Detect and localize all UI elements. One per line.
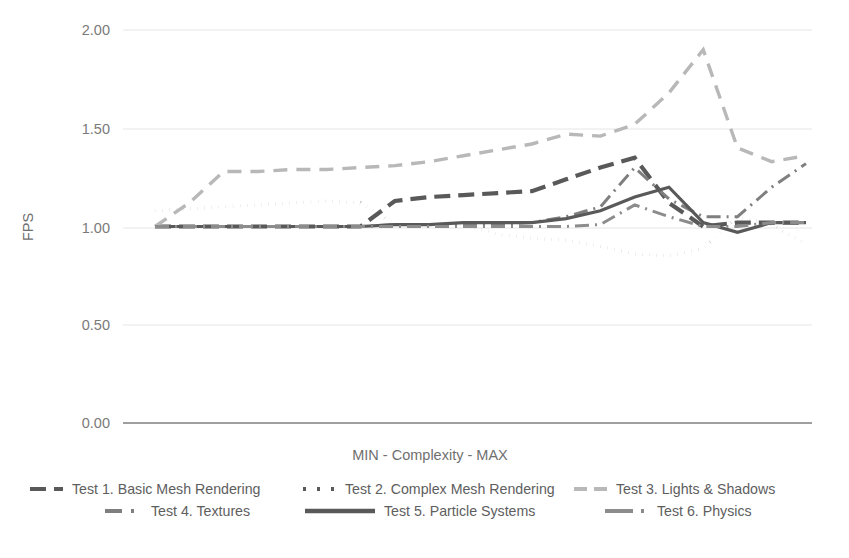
y-tick-label: 1.00 [82,220,110,236]
chart-canvas: 2.00 1.50 1.00 0.50 0.00 FPS MIN - Compl… [0,0,849,558]
legend-item-test-1[interactable]: Test 1. Basic Mesh Rendering [30,481,260,497]
y-tick-label: 2.00 [82,22,110,38]
legend-label: Test 2. Complex Mesh Rendering [345,481,555,497]
legend-label: Test 4. Textures [151,503,250,519]
legend-item-test-3[interactable]: Test 3. Lights & Shadows [574,481,775,497]
series-layer [155,50,806,256]
fps-complexity-line-chart: 2.00 1.50 1.00 0.50 0.00 FPS MIN - Compl… [0,0,849,558]
y-tick-label: 0.50 [82,317,110,333]
legend-item-test-4[interactable]: Test 4. Textures [105,503,250,519]
y-axis-tick-labels: 2.00 1.50 1.00 0.50 0.00 [82,22,110,431]
legend-label: Test 3. Lights & Shadows [616,481,775,497]
y-tick-label: 1.50 [82,121,110,137]
legend-item-test-5[interactable]: Test 5. Particle Systems [305,503,535,519]
legend-item-test-2[interactable]: Test 2. Complex Mesh Rendering [303,481,555,497]
legend: Test 1. Basic Mesh Rendering Test 2. Com… [30,481,775,519]
series-line-3 [155,50,806,227]
legend-item-test-6[interactable]: Test 6. Physics [605,503,752,519]
y-tick-label: 0.00 [82,415,110,431]
legend-label: Test 5. Particle Systems [384,503,535,519]
legend-label: Test 6. Physics [657,503,752,519]
y-axis-title: FPS [20,213,36,241]
x-axis-title: MIN - Complexity - MAX [352,447,508,463]
legend-label: Test 1. Basic Mesh Rendering [72,481,260,497]
